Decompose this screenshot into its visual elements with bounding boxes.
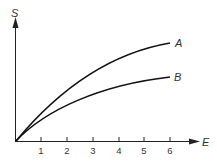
chart: 1 2 3 4 5 6 S E A B (0, 0, 217, 162)
y-axis-label: S (11, 7, 19, 19)
curve-b-label: B (174, 71, 181, 83)
tick-label-5: 5 (141, 145, 146, 156)
curve-a-label: A (174, 37, 182, 49)
curve-a (16, 43, 170, 141)
tick-label-1: 1 (38, 145, 43, 156)
tick-label-2: 2 (64, 145, 69, 156)
tick-label-6: 6 (167, 145, 172, 156)
x-ticks (41, 137, 170, 141)
curve-b (16, 77, 170, 141)
x-axis-arrow-icon (189, 139, 200, 145)
tick-label-3: 3 (90, 145, 95, 156)
x-axis-label: E (202, 136, 210, 148)
tick-label-4: 4 (116, 145, 121, 156)
